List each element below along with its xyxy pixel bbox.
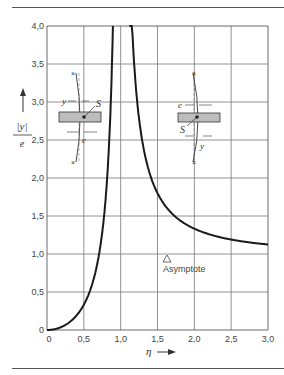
x-tick-label: 2,5 [225, 334, 238, 344]
triangle-icon [163, 255, 171, 262]
grid [47, 26, 268, 330]
curve-right-branch [129, 26, 268, 245]
y-tick-label: 2,5 [31, 135, 44, 145]
x-tick-label: 3,0 [262, 334, 275, 344]
y-tick-label: 0 [39, 325, 44, 335]
asymptote-annotation: Asymptote [163, 255, 206, 274]
asymptote-label: Asymptote [163, 264, 206, 274]
x-tick-label: 0 [46, 334, 51, 344]
y-tick-label: 1,5 [31, 211, 44, 221]
x-tick-label: 0,5 [78, 334, 91, 344]
y-tick-label: 0,5 [31, 287, 44, 297]
y-tick-label: 2,0 [31, 173, 44, 183]
y-tick-label: 4,0 [31, 21, 44, 31]
svg-text:×: × [71, 70, 75, 77]
inset-left-diagram: × × S y e [59, 70, 101, 166]
y-label-denominator: e [20, 138, 25, 149]
inset-right-diagram: × × S e y [178, 70, 220, 166]
x-label: η [146, 345, 151, 357]
inset-left-e: e [82, 135, 86, 145]
x-tick-label: 1,0 [114, 334, 127, 344]
inset-right-s: S [180, 124, 185, 135]
arrow-up-icon [20, 88, 26, 96]
y-label-numerator: |y| [17, 120, 28, 132]
x-tick-label: 1,5 [151, 334, 164, 344]
svg-text:×: × [192, 70, 196, 77]
svg-text:×: × [192, 159, 196, 166]
arrow-right-icon [168, 349, 176, 355]
y-tick-label: 3,5 [31, 59, 44, 69]
inset-left-s: S [96, 98, 101, 109]
y-tick-label: 1,0 [31, 249, 44, 259]
inset-right-y: y [199, 141, 204, 151]
inset-right-e: e [178, 100, 182, 110]
y-tick-label: 3,0 [31, 97, 44, 107]
svg-text:×: × [71, 159, 75, 166]
inset-left-y: y [61, 96, 66, 106]
x-tick-label: 2,0 [188, 334, 201, 344]
y-axis-label: |y| e [13, 88, 32, 149]
chart: 00,51,01,52,02,53,000,51,01,52,02,53,03,… [0, 0, 284, 375]
x-axis-label: η [146, 345, 176, 357]
